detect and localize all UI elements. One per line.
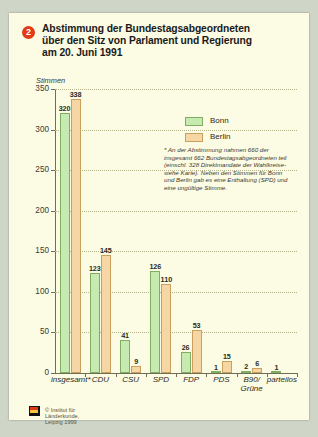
y-axis-tick-label: 150 bbox=[19, 246, 49, 255]
source-text: © Institut für Länderkunde, Leipzig 1999 bbox=[45, 407, 79, 425]
gridline bbox=[55, 251, 297, 252]
figure-number-badge: 2 bbox=[22, 26, 35, 39]
y-axis-tick bbox=[51, 251, 55, 252]
bar-bonn-0 bbox=[60, 113, 70, 373]
y-axis bbox=[55, 89, 56, 373]
y-axis-tick-label: 100 bbox=[19, 287, 49, 296]
legend-swatch-icon bbox=[185, 133, 203, 142]
y-axis-tick bbox=[51, 170, 55, 171]
x-axis-category-line: Grüne bbox=[233, 385, 271, 394]
bar-berlin-2 bbox=[131, 366, 141, 373]
y-axis-tick-label: 200 bbox=[19, 206, 49, 215]
infographic-card: 2 Abstimmung der Bundestagsabgeordneten … bbox=[9, 13, 309, 420]
gridline bbox=[55, 211, 297, 212]
bar-bonn-3 bbox=[150, 271, 160, 373]
chart-header: 2 Abstimmung der Bundestagsabgeordneten … bbox=[9, 23, 309, 75]
bar-berlin-5 bbox=[222, 361, 232, 373]
title-line-3: am 20. Juni 1991 bbox=[42, 47, 297, 59]
page-title: Abstimmung der Bundestagsabgeordneten üb… bbox=[42, 23, 297, 59]
x-axis-category-labels: insgesamt*CDUCSUSPDFDPPDSB90/Grünepartei… bbox=[55, 376, 297, 402]
gridline bbox=[55, 89, 297, 90]
institute-logo-icon bbox=[29, 406, 40, 416]
y-axis-tick bbox=[51, 332, 55, 333]
bar-berlin-4 bbox=[192, 330, 202, 373]
legend-label: Berlin bbox=[210, 132, 230, 141]
bar-value-label: 126 bbox=[142, 262, 168, 271]
bar-berlin-1 bbox=[101, 255, 111, 373]
y-axis-tick-label: 0 bbox=[19, 368, 49, 377]
y-axis-tick-label: 250 bbox=[19, 165, 49, 174]
y-axis-tick bbox=[51, 89, 55, 90]
bar-value-label: 110 bbox=[153, 275, 179, 284]
x-axis-category-label: parteilos bbox=[263, 376, 301, 385]
bar-berlin-6 bbox=[252, 368, 262, 373]
x-axis-category-line: parteilos bbox=[263, 376, 301, 385]
y-axis-tick bbox=[51, 211, 55, 212]
bar-bonn-1 bbox=[90, 273, 100, 373]
bar-chart-plot-area: 0501001502002503003503203381231454191261… bbox=[55, 89, 297, 373]
y-axis-tick bbox=[51, 373, 55, 374]
bar-bonn-4 bbox=[181, 352, 191, 373]
y-axis-tick-label: 300 bbox=[19, 125, 49, 134]
gridline bbox=[55, 130, 297, 131]
y-axis-tick bbox=[51, 130, 55, 131]
footnote-text: * An der Abstimmung nahmen 660 der insge… bbox=[164, 146, 288, 191]
y-axis-tick-label: 50 bbox=[19, 327, 49, 336]
title-line-1: Abstimmung der Bundestagsabgeordneten bbox=[42, 23, 297, 35]
y-axis-tick-label: 350 bbox=[19, 84, 49, 93]
bar-value-label: 9 bbox=[123, 357, 149, 366]
legend-label: Bonn bbox=[210, 116, 229, 125]
legend-swatch-icon bbox=[185, 117, 203, 126]
bar-value-label: 338 bbox=[63, 90, 89, 99]
bar-value-label: 41 bbox=[112, 331, 138, 340]
bar-value-label: 15 bbox=[214, 352, 240, 361]
bar-berlin-3 bbox=[161, 284, 171, 373]
chart-footnote: * An der Abstimmung nahmen 660 der insge… bbox=[164, 146, 290, 191]
bar-value-label: 1 bbox=[263, 363, 289, 372]
bar-berlin-0 bbox=[71, 99, 81, 373]
bar-value-label: 53 bbox=[184, 321, 210, 330]
title-line-2: über den Sitz von Parlament und Regierun… bbox=[42, 35, 297, 47]
bar-value-label: 145 bbox=[93, 246, 119, 255]
y-axis-tick bbox=[51, 292, 55, 293]
